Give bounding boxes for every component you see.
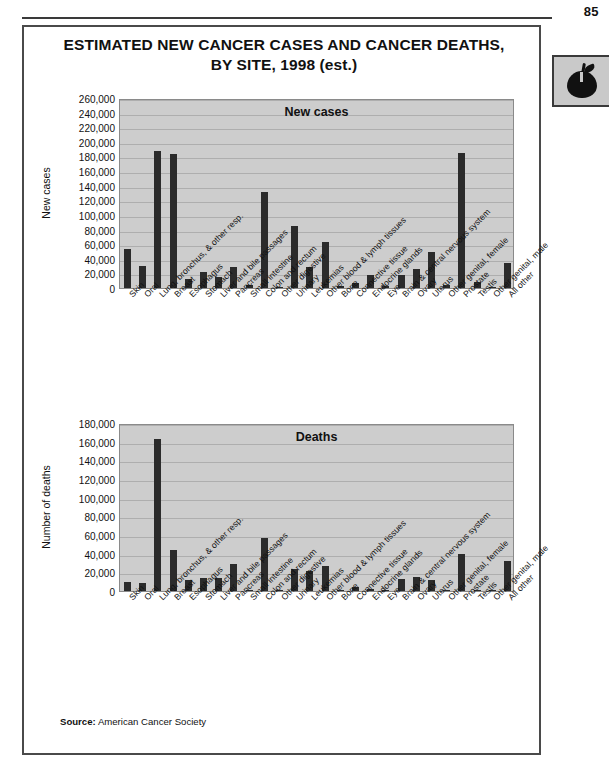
gridline: [120, 158, 513, 159]
y-axis-tick: 0: [24, 284, 115, 295]
source-note: Source: American Cancer Society: [60, 716, 206, 727]
y-axis-tick: 80,000: [24, 225, 115, 236]
y-axis-tick: 180,000: [24, 419, 115, 430]
y-axis-tick: 100,000: [24, 210, 115, 221]
y-axis-tick: 180,000: [24, 152, 115, 163]
y-axis-tick: 160,000: [24, 167, 115, 178]
gridline: [120, 425, 513, 426]
chart-new-cases: New cases020,00040,00060,00080,000100,00…: [24, 89, 539, 409]
gridline: [120, 462, 513, 463]
page-title: ESTIMATED NEW CANCER CASES AND CANCER DE…: [54, 35, 514, 74]
page-top-rule: [22, 17, 552, 19]
y-axis-tick: 140,000: [24, 181, 115, 192]
bar: [154, 151, 161, 288]
section-thumb-tab: [552, 55, 609, 107]
gridline: [120, 173, 513, 174]
gridline: [120, 144, 513, 145]
plot-heading: New cases: [120, 105, 513, 119]
gridline: [120, 537, 513, 538]
gridline: [120, 129, 513, 130]
plot-heading: Deaths: [120, 430, 513, 444]
y-axis-tick: 20,000: [24, 269, 115, 280]
y-axis-tick: 80,000: [24, 512, 115, 523]
source-label: Source:: [60, 716, 96, 727]
gridline: [120, 100, 513, 101]
chart-deaths: Number of deaths020,00040,00060,00080,00…: [24, 412, 539, 687]
gridline: [120, 217, 513, 218]
page-frame: ESTIMATED NEW CANCER CASES AND CANCER DE…: [22, 25, 541, 755]
bar: [124, 249, 131, 288]
y-axis-tick: 200,000: [24, 137, 115, 148]
y-axis-tick: 120,000: [24, 475, 115, 486]
apple-cleft-icon: [580, 72, 583, 82]
y-axis-tick: 260,000: [24, 94, 115, 105]
gridline: [120, 232, 513, 233]
y-axis-tick: 160,000: [24, 437, 115, 448]
y-axis-label: Number of deaths: [40, 423, 52, 591]
y-axis-tick: 100,000: [24, 493, 115, 504]
y-axis-tick: 120,000: [24, 196, 115, 207]
y-axis-tick: 40,000: [24, 549, 115, 560]
page-title-line2: BY SITE, 1998 (est.): [54, 55, 514, 75]
bar: [170, 154, 177, 288]
apple-icon: [565, 63, 599, 99]
y-axis-tick: 240,000: [24, 108, 115, 119]
gridline: [120, 518, 513, 519]
y-axis-tick: 220,000: [24, 123, 115, 134]
bar: [124, 582, 131, 591]
y-axis-tick: 140,000: [24, 456, 115, 467]
gridline: [120, 188, 513, 189]
y-axis-tick: 60,000: [24, 531, 115, 542]
source-value: American Cancer Society: [98, 716, 206, 727]
page-title-line1: ESTIMATED NEW CANCER CASES AND CANCER DE…: [54, 35, 514, 55]
gridline: [120, 500, 513, 501]
y-axis-tick: 60,000: [24, 240, 115, 251]
y-axis-tick: 40,000: [24, 254, 115, 265]
y-axis-tick: 20,000: [24, 568, 115, 579]
bar: [458, 153, 465, 288]
gridline: [120, 202, 513, 203]
y-axis-tick: 0: [24, 587, 115, 598]
bar: [154, 439, 161, 592]
gridline: [120, 481, 513, 482]
page-number: 85: [584, 4, 599, 19]
